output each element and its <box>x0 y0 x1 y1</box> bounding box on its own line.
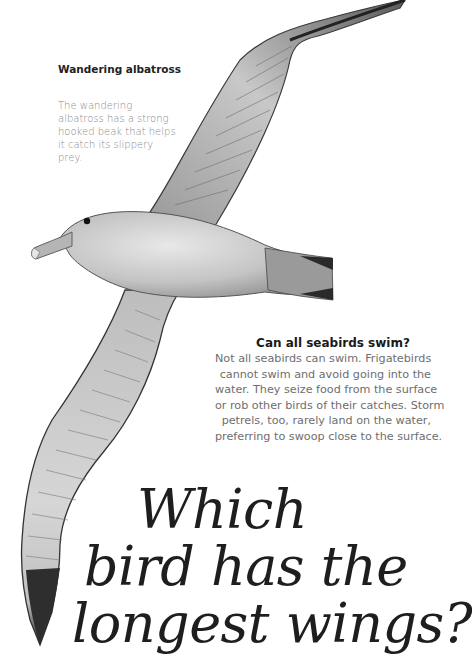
headline-line: bird has the <box>84 535 408 598</box>
headline-line: Which <box>137 478 307 541</box>
headline-line: longest wings? <box>72 592 472 655</box>
